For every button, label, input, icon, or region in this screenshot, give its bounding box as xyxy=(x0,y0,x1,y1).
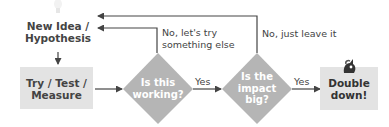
new-idea-node: New Idea / Hypothesis xyxy=(18,20,98,44)
decision1-no-line1: No, let's try xyxy=(162,27,235,39)
arrow-decision1-no xyxy=(98,28,157,53)
decision1-no-label: No, let's try something else xyxy=(162,27,235,50)
decision2-label-line3: big? xyxy=(222,94,292,106)
end-label-line2: down! xyxy=(320,89,378,101)
decision2-label-line1: Is the xyxy=(222,71,292,83)
process-label-line1: Try / Test / xyxy=(20,77,93,89)
decision2-yes-label: Yes xyxy=(294,76,309,88)
try-test-measure-label: Try / Test / Measure xyxy=(20,77,93,101)
unicorn-icon xyxy=(340,58,358,74)
decision2-no-label: No, just leave it xyxy=(262,28,336,40)
decision1-label-line1: Is this xyxy=(123,77,193,89)
lightbulb-icon xyxy=(54,0,62,13)
double-down-label: Double down! xyxy=(320,77,378,101)
decision1-yes-label: Yes xyxy=(195,76,210,88)
decision2-label: Is the impact big? xyxy=(222,71,292,106)
process-label-line2: Measure xyxy=(20,89,93,101)
decision2-label-line2: impact xyxy=(222,83,292,95)
new-idea-label-line2: Hypothesis xyxy=(18,32,98,44)
decision1-label-line2: working? xyxy=(123,89,193,101)
end-label-line1: Double xyxy=(320,77,378,89)
decision1-no-line2: something else xyxy=(162,39,235,51)
decision1-label: Is this working? xyxy=(123,77,193,100)
new-idea-label-line1: New Idea / xyxy=(18,20,98,32)
